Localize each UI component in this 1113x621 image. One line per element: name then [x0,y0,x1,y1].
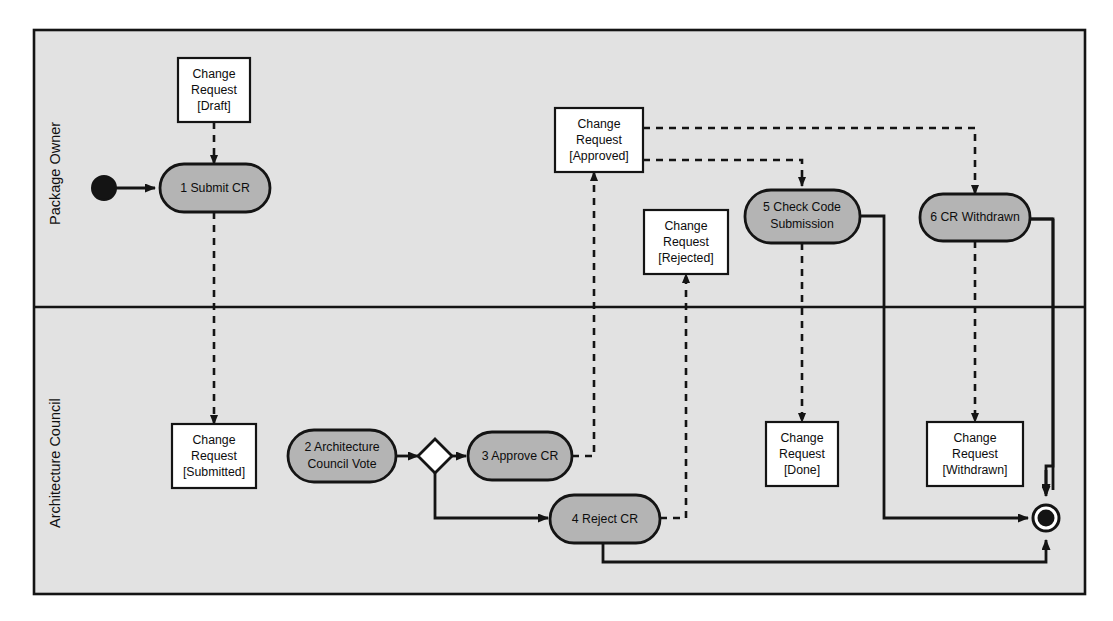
object-label-line3: [Submitted] [183,465,245,479]
object-label-line1: Change [192,67,235,81]
object-label-line2: Request [952,447,998,461]
activity-node-5-check-code-submission[interactable]: 5 Check Code Submission [745,190,860,243]
object-label-line1: Change [664,219,707,233]
object-node-approved[interactable]: Change Request [Approved] [555,108,643,172]
object-label-line3: [Rejected] [658,251,713,265]
object-label-line1: Change [953,431,996,445]
object-label-line3: [Withdrawn] [943,463,1008,477]
lane-label-text: Package Owner [47,122,63,225]
lane-label-architecture-council: Architecture Council [47,398,63,528]
object-node-draft[interactable]: Change Request [Draft] [178,58,250,122]
activity-node-4-reject-cr[interactable]: 4 Reject CR [550,495,660,543]
activity-label: 6 CR Withdrawn [930,210,1020,224]
final-node[interactable] [1033,505,1059,531]
activity-label-line1: 5 Check Code [763,200,841,214]
object-node-done[interactable]: Change Request [Done] [766,422,838,486]
object-label-line3: [Draft] [197,99,230,113]
activity-node-1-submit-cr[interactable]: 1 Submit CR [160,164,270,212]
object-label-line2: Request [663,235,709,249]
lane-label-package-owner: Package Owner [47,122,63,225]
object-label-line1: Change [780,431,823,445]
activity-diagram: Package Owner Architecture Council [0,0,1113,621]
activity-label: 4 Reject CR [572,512,638,526]
object-label-line2: Request [191,449,237,463]
initial-node[interactable] [92,176,116,200]
object-label-line1: Change [577,117,620,131]
activity-label-line2: Submission [770,217,834,231]
object-label-line1: Change [192,433,235,447]
activity-label-line1: 2 Architecture [304,440,379,454]
activity-label: 1 Submit CR [180,181,250,195]
object-node-rejected[interactable]: Change Request [Rejected] [644,210,728,274]
object-node-submitted[interactable]: Change Request [Submitted] [172,424,256,488]
activity-label-line2: Council Vote [307,457,376,471]
object-node-withdrawn[interactable]: Change Request [Withdrawn] [927,422,1023,486]
object-label-line2: Request [191,83,237,97]
activity-node-3-approve-cr[interactable]: 3 Approve CR [468,432,572,480]
lane-label-text: Architecture Council [47,398,63,528]
object-label-line2: Request [779,447,825,461]
object-label-line3: [Approved] [569,149,628,163]
activity-label: 3 Approve CR [482,449,559,463]
activity-node-2-architecture-council-vote[interactable]: 2 Architecture Council Vote [288,430,396,482]
object-label-line2: Request [576,133,622,147]
object-label-line3: [Done] [784,463,820,477]
activity-node-6-cr-withdrawn[interactable]: 6 CR Withdrawn [920,194,1030,241]
diagram-canvas: Package Owner Architecture Council [0,0,1113,621]
